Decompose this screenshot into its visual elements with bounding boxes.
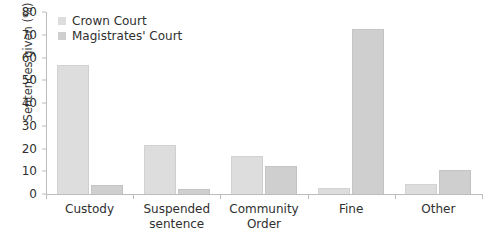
y-axis-tick-label: 20 <box>22 142 41 156</box>
y-axis-tick-label: 0 <box>29 187 41 201</box>
bar-magistrates-court <box>352 29 384 194</box>
y-axis-tick-label: 80 <box>22 5 41 19</box>
x-axis-tick-mark <box>220 195 221 199</box>
x-axis-category-line: Community <box>220 202 307 217</box>
y-axis-tick-label: 70 <box>22 28 41 42</box>
x-axis-category-line: Order <box>220 217 307 232</box>
x-axis-category-label: CommunityOrder <box>220 202 307 232</box>
bar-magistrates-court <box>265 166 297 194</box>
x-axis-category-line: Custody <box>46 202 133 217</box>
chart-legend: Crown CourtMagistrates' Court <box>58 13 182 43</box>
legend-swatch-icon <box>58 17 66 25</box>
legend-label: Magistrates' Court <box>72 29 182 43</box>
y-axis-tick-label: 10 <box>22 164 41 178</box>
x-axis-tick-mark <box>482 195 483 199</box>
x-axis-category-label: Suspendedsentence <box>133 202 220 232</box>
bar-crown-court <box>231 156 263 194</box>
x-axis-category-line: Other <box>395 202 482 217</box>
y-axis-tick-label: 60 <box>22 51 41 65</box>
x-axis-tick-mark <box>46 195 47 199</box>
y-axis-tick-label: 40 <box>22 96 41 110</box>
legend-swatch-icon <box>58 32 66 40</box>
bar-chart: Sentences given (%) 80706050403020100 Cu… <box>0 0 490 247</box>
x-axis-category-label: Fine <box>308 202 395 217</box>
legend-label: Crown Court <box>72 14 147 28</box>
bar-crown-court <box>405 184 437 194</box>
x-axis-category-line: sentence <box>133 217 220 232</box>
bar-crown-court <box>57 65 89 194</box>
x-axis-tick-mark <box>308 195 309 199</box>
bar-magistrates-court <box>91 185 123 194</box>
x-axis-category-label: Other <box>395 202 482 217</box>
x-axis-category-label: Custody <box>46 202 133 217</box>
legend-item: Crown Court <box>58 13 182 28</box>
x-axis-line <box>46 194 483 195</box>
y-axis-tick-label: 30 <box>22 119 41 133</box>
y-axis-tick-label: 50 <box>22 73 41 87</box>
legend-item: Magistrates' Court <box>58 28 182 43</box>
bar-crown-court <box>144 145 176 194</box>
x-axis-tick-mark <box>395 195 396 199</box>
bar-magistrates-court <box>178 189 210 194</box>
x-axis-category-line: Fine <box>308 202 395 217</box>
bar-crown-court <box>318 188 350 194</box>
x-axis-tick-mark <box>133 195 134 199</box>
bar-magistrates-court <box>439 170 471 194</box>
x-axis-category-line: Suspended <box>133 202 220 217</box>
